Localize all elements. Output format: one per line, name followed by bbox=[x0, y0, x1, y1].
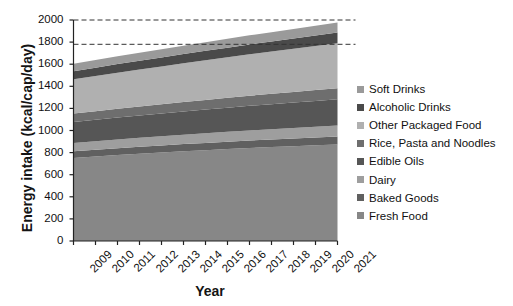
legend-item-label: Other Packaged Food bbox=[369, 119, 482, 131]
legend-swatch-icon bbox=[357, 176, 364, 183]
x-axis-title: Year bbox=[150, 283, 270, 299]
y-tick-label: 200 bbox=[22, 213, 64, 224]
legend-swatch-icon bbox=[357, 104, 364, 111]
legend-item-label: Dairy bbox=[369, 174, 396, 186]
legend-item[interactable]: Fresh Food bbox=[357, 207, 509, 225]
legend-swatch-icon bbox=[357, 122, 364, 129]
legend-item-label: Fresh Food bbox=[369, 210, 428, 222]
legend-item-label: Soft Drinks bbox=[369, 83, 425, 95]
legend-item[interactable]: Soft Drinks bbox=[357, 80, 509, 98]
y-tick-label: 1400 bbox=[22, 80, 64, 91]
legend-item[interactable]: Rice, Pasta and Noodles bbox=[357, 134, 509, 152]
legend-item-label: Alcoholic Drinks bbox=[369, 101, 451, 113]
chart-legend: Soft DrinksAlcoholic DrinksOther Package… bbox=[357, 80, 509, 225]
y-tick-label: 600 bbox=[22, 169, 64, 180]
y-tick-label: 1800 bbox=[22, 36, 64, 47]
legend-item[interactable]: Other Packaged Food bbox=[357, 116, 509, 134]
plot-area: 0200400600800100012001400160018002000 20… bbox=[0, 0, 360, 306]
legend-swatch-icon bbox=[357, 158, 364, 165]
legend-item-label: Rice, Pasta and Noodles bbox=[369, 137, 496, 149]
legend-item[interactable]: Edible Oils bbox=[357, 152, 509, 170]
legend-swatch-icon bbox=[357, 140, 364, 147]
y-tick-label: 1600 bbox=[22, 58, 64, 69]
legend-swatch-icon bbox=[357, 212, 364, 219]
legend-item[interactable]: Dairy bbox=[357, 170, 509, 188]
legend-item[interactable]: Baked Goods bbox=[357, 189, 509, 207]
legend-swatch-icon bbox=[357, 86, 364, 93]
y-tick-label: 2000 bbox=[22, 14, 64, 25]
legend-item-label: Baked Goods bbox=[369, 192, 439, 204]
y-tick-label: 0 bbox=[22, 235, 64, 246]
y-tick-label: 800 bbox=[22, 147, 64, 158]
y-tick-label: 1000 bbox=[22, 125, 64, 136]
chart-container: Energy intake (kcal/cap/day) 02004006008… bbox=[0, 0, 513, 306]
legend-swatch-icon bbox=[357, 194, 364, 201]
area-band-fresh-food bbox=[74, 144, 338, 241]
legend-item-label: Edible Oils bbox=[369, 155, 424, 167]
y-tick-label: 400 bbox=[22, 191, 64, 202]
legend-item[interactable]: Alcoholic Drinks bbox=[357, 98, 509, 116]
y-tick-label: 1200 bbox=[22, 102, 64, 113]
